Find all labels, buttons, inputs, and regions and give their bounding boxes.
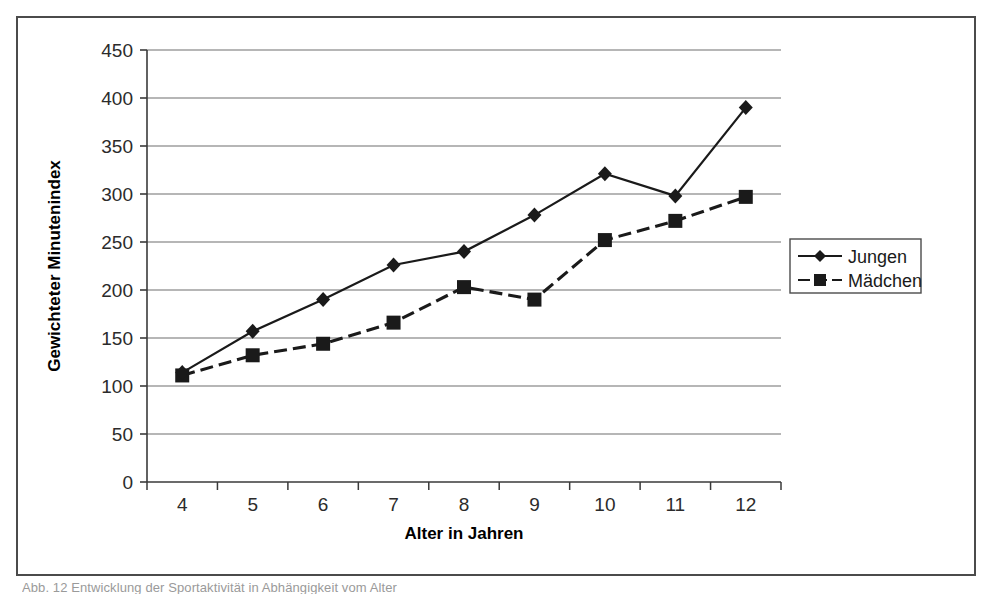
y-axis: 050100150200250300350400450 xyxy=(101,40,147,493)
data-point-marker[interactable] xyxy=(668,214,682,228)
chart-frame: 050100150200250300350400450 456789101112… xyxy=(16,16,976,576)
data-point-marker[interactable] xyxy=(457,280,471,294)
data-point-marker[interactable] xyxy=(316,337,330,351)
y-tick-label: 250 xyxy=(101,232,133,253)
y-tick-label: 400 xyxy=(101,88,133,109)
data-point-marker[interactable] xyxy=(246,348,260,362)
y-tick-label: 0 xyxy=(122,472,133,493)
y-tick-label: 300 xyxy=(101,184,133,205)
x-tick-label: 11 xyxy=(665,494,685,515)
x-tick-label: 10 xyxy=(594,494,615,515)
legend-label-maedchen: Mädchen xyxy=(848,271,922,291)
square-icon xyxy=(814,274,826,286)
x-axis: 456789101112 xyxy=(147,482,781,515)
line-chart: 050100150200250300350400450 456789101112… xyxy=(18,18,974,574)
gridlines xyxy=(147,50,781,434)
y-tick-label: 100 xyxy=(101,376,133,397)
data-point-marker[interactable] xyxy=(246,324,260,339)
legend-label-jungen: Jungen xyxy=(848,247,907,267)
data-point-marker[interactable] xyxy=(527,293,541,307)
figure-caption: Abb. 12 Entwicklung der Sportaktivität i… xyxy=(22,580,722,594)
data-point-marker[interactable] xyxy=(316,292,330,307)
x-tick-label: 12 xyxy=(735,494,756,515)
legend: Jungen Mädchen xyxy=(790,239,922,293)
figure-container: 050100150200250300350400450 456789101112… xyxy=(0,0,988,594)
data-point-marker[interactable] xyxy=(739,190,753,204)
x-tick-label: 4 xyxy=(177,494,188,515)
series-line xyxy=(182,108,746,373)
data-point-marker[interactable] xyxy=(527,208,541,223)
data-point-marker[interactable] xyxy=(598,166,612,181)
y-tick-label: 200 xyxy=(101,280,133,301)
series-maedchen xyxy=(175,190,753,383)
y-tick-label: 150 xyxy=(101,328,133,349)
data-point-marker[interactable] xyxy=(387,258,401,273)
x-tick-label: 7 xyxy=(388,494,399,515)
data-point-marker[interactable] xyxy=(457,244,471,259)
x-tick-label: 8 xyxy=(459,494,470,515)
data-point-marker[interactable] xyxy=(598,233,612,247)
x-tick-label: 5 xyxy=(247,494,258,515)
y-tick-label: 50 xyxy=(112,424,133,445)
y-axis-title: Gewichteter Minutenindex xyxy=(45,160,64,372)
data-point-marker[interactable] xyxy=(387,316,401,330)
y-tick-label: 450 xyxy=(101,40,133,61)
x-tick-label: 6 xyxy=(318,494,329,515)
y-tick-label: 350 xyxy=(101,136,133,157)
x-tick-label: 9 xyxy=(529,494,540,515)
x-axis-title: Alter in Jahren xyxy=(404,524,523,543)
